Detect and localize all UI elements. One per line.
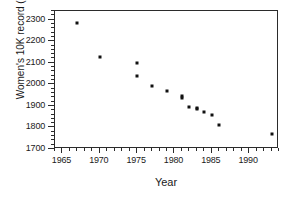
x-axis-minor-tick [91,148,92,151]
x-axis-minor-tick [188,148,189,151]
data-point [218,124,221,127]
plot-area [54,10,278,148]
y-axis-minor-tick [51,109,54,110]
y-axis-tick [48,126,54,127]
x-axis-minor-tick [151,148,152,151]
y-axis-minor-tick [51,131,54,132]
x-axis-minor-tick [121,148,122,151]
x-axis-tick [248,148,249,153]
x-axis-minor-tick [263,148,264,151]
y-axis-minor-tick [51,23,54,24]
x-axis-tick-label: 1970 [79,155,119,165]
y-axis-minor-tick [51,96,54,97]
y-axis-minor-tick [51,36,54,37]
x-axis-minor-tick [181,148,182,151]
data-point [188,105,191,108]
x-axis-minor-tick [196,148,197,151]
x-axis-minor-tick [69,148,70,151]
x-axis-tick-label: 1965 [41,155,81,165]
y-axis-tick [48,105,54,106]
y-axis-minor-tick [51,144,54,145]
y-axis-minor-tick [51,32,54,33]
y-axis-tick-label: 2000 [5,79,45,88]
y-axis-tick-label: 2100 [5,57,45,66]
x-axis-tick [211,148,212,153]
x-axis-minor-tick [278,148,279,151]
x-axis-minor-tick [159,148,160,151]
y-axis-minor-tick [51,70,54,71]
y-axis-tick [48,83,54,84]
data-point-layer [55,11,277,147]
y-axis-minor-tick [51,75,54,76]
y-axis-minor-tick [51,114,54,115]
y-axis-minor-tick [51,139,54,140]
y-axis-tick-label: 1900 [5,100,45,109]
x-axis-minor-tick [203,148,204,151]
x-axis-tick-label: 1975 [116,155,156,165]
scatter-plot-figure: Women's 10K record (seconds) Year 170018… [0,0,294,201]
x-axis-minor-tick [271,148,272,151]
y-axis-tick-label: 1800 [5,122,45,131]
data-point [151,84,154,87]
x-axis-minor-tick [129,148,130,151]
y-axis-tick-label: 1700 [5,144,45,153]
y-axis-minor-tick [51,92,54,93]
data-point [210,114,213,117]
x-axis-minor-tick [76,148,77,151]
y-axis-minor-tick [51,10,54,11]
data-point [166,89,169,92]
x-axis-tick [173,148,174,153]
data-point [136,75,139,78]
x-axis-minor-tick [256,148,257,151]
x-axis-tick [136,148,137,153]
y-axis-minor-tick [51,118,54,119]
x-axis-minor-tick [166,148,167,151]
y-axis-minor-tick [51,53,54,54]
y-axis-minor-tick [51,101,54,102]
x-axis-tick-label: 1980 [153,155,193,165]
x-axis-minor-tick [226,148,227,151]
y-axis-tick [48,40,54,41]
y-axis-tick [48,62,54,63]
x-axis-tick-label: 1985 [191,155,231,165]
x-axis-minor-tick [106,148,107,151]
y-axis-minor-tick [51,79,54,80]
x-axis-minor-tick [54,148,55,151]
y-axis-minor-tick [51,135,54,136]
x-axis-minor-tick [114,148,115,151]
x-axis-minor-tick [233,148,234,151]
y-axis-minor-tick [51,57,54,58]
y-axis-tick-label: 2300 [5,14,45,23]
x-axis-minor-tick [218,148,219,151]
y-axis-minor-tick [51,27,54,28]
data-point [136,62,139,65]
data-point [98,55,101,58]
x-axis-minor-tick [241,148,242,151]
data-point [203,110,206,113]
y-axis-minor-tick [51,14,54,15]
y-axis-tick-label: 2200 [5,36,45,45]
y-axis-minor-tick [51,45,54,46]
y-axis-minor-tick [51,66,54,67]
data-point [180,97,183,100]
data-point [270,133,273,136]
x-axis-minor-tick [144,148,145,151]
y-axis-minor-tick [51,88,54,89]
y-axis-tick [48,19,54,20]
x-axis-tick [61,148,62,153]
data-point [76,21,79,24]
y-axis-minor-tick [51,49,54,50]
x-axis-minor-tick [84,148,85,151]
x-axis-tick [99,148,100,153]
data-point [195,108,198,111]
x-axis-title: Year [54,176,278,188]
y-axis-minor-tick [51,122,54,123]
x-axis-tick-label: 1990 [228,155,268,165]
